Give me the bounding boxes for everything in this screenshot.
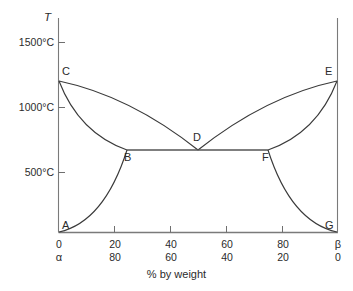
point-label-c: C [62,66,70,77]
x-axis-alpha-symbol: α [45,252,73,263]
x-axis-beta-symbol: β [324,239,352,250]
x-tick-label-40: 40 [157,239,185,250]
point-label-e: E [325,66,332,77]
phase-diagram-figure: T 1500°C 1000°C 500°C 0 20 40 60 80 β α … [0,0,353,291]
liquidus-left-curve [59,81,198,150]
y-tick-label-1500: 1500°C [0,37,54,48]
x-tick-label-20: 20 [101,239,129,250]
point-label-d: D [193,132,201,143]
x-tick-label-80: 80 [269,239,297,250]
x-axis-title: % by weight [0,269,353,280]
x-tick-label2-40: 40 [213,252,241,263]
point-label-g: G [325,220,334,231]
point-label-a: A [62,220,69,231]
solidus-right-curve [268,81,337,150]
x-tick-label2-20: 20 [269,252,297,263]
x-tick-label2-80: 80 [101,252,129,263]
x-tick-label-0: 0 [45,239,73,250]
solidus-left-curve [59,81,127,150]
y-axis-title: T [44,12,51,24]
y-tick-label-1000: 1000°C [0,102,54,113]
point-label-f: F [262,152,269,163]
x-tick-label-60: 60 [213,239,241,250]
y-tick-label-500: 500°C [0,167,54,178]
point-label-b: B [124,152,131,163]
liquidus-right-curve [198,81,337,150]
x-tick-label2-60: 60 [157,252,185,263]
x-tick-label2-0: 0 [324,252,352,263]
